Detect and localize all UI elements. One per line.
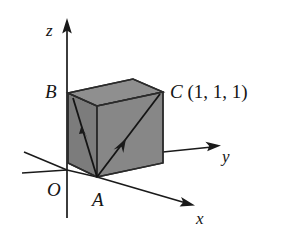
x-axis	[97, 177, 186, 203]
point-b-label: B	[45, 82, 57, 101]
y-axis	[163, 147, 212, 152]
z-axis-label: z	[46, 22, 53, 39]
figure-container: z B O A C (1, 1, 1) y x	[0, 0, 281, 239]
y-axis-arrowhead	[205, 142, 221, 152]
point-c-letter: C	[170, 81, 183, 102]
point-c-label: C (1, 1, 1)	[170, 82, 248, 101]
negative-y-axis	[24, 152, 67, 170]
point-a-label: A	[92, 190, 104, 209]
y-axis-label: y	[222, 148, 230, 165]
origin-label: O	[47, 180, 61, 199]
point-c-coordinates: (1, 1, 1)	[183, 81, 248, 102]
x-axis-label: x	[196, 210, 204, 227]
negative-x-axis	[22, 170, 67, 173]
coordinate-system-diagram	[0, 0, 281, 239]
